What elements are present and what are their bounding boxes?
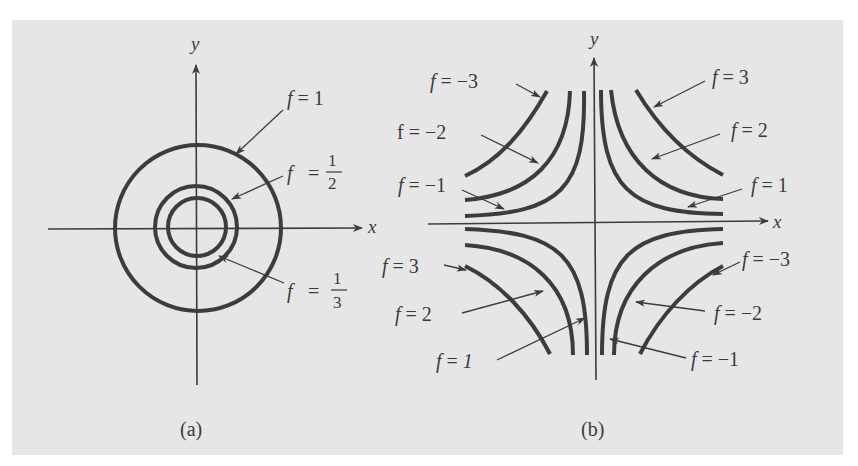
label-f-equals-1-top-right: f = 1	[688, 174, 788, 207]
svg-text:f = −2: f = −2	[714, 302, 762, 325]
label-f-equals-neg3-bottom-right: f = −3	[713, 248, 790, 275]
svg-text:2: 2	[328, 174, 337, 193]
svg-text:f = −3: f = −3	[430, 70, 478, 93]
svg-text:1: 1	[333, 269, 342, 288]
svg-text:=: =	[308, 280, 319, 302]
label-f-equals-neg2-top-left: f = −2	[397, 121, 538, 163]
label-f-equals-3-top-right: f = 3	[654, 66, 749, 107]
curve-f-neg3-upper-left	[465, 91, 547, 176]
svg-text:=: =	[308, 162, 319, 184]
svg-text:f: f	[287, 162, 295, 185]
svg-text:f = 2: f = 2	[731, 119, 768, 142]
label-f-equals-1-bottom-left: f = 1	[436, 318, 585, 373]
quadrant-lower-right-curves	[602, 229, 723, 355]
label-f-equals-neg1-bottom-right: f = −1	[610, 339, 739, 371]
curve-f-3-upper-right	[636, 90, 723, 175]
svg-text:f = 3: f = 3	[712, 66, 749, 89]
svg-text:f = 1: f = 1	[436, 350, 473, 373]
svg-text:f = −2: f = −2	[397, 121, 446, 143]
curve-f-neg3-lower-right	[640, 266, 723, 354]
x-axis-label: x	[367, 216, 377, 237]
label-f-equals-one-half: f = 1 2	[232, 151, 342, 199]
panel-b-caption: (b)	[581, 418, 604, 441]
quadrant-lower-left-curves	[465, 229, 587, 355]
svg-text:3: 3	[333, 293, 342, 312]
label-f-equals-neg3-top-left: f = −3	[430, 70, 540, 97]
x-axis-label: x	[772, 211, 782, 232]
label-f-equals-neg1-top-left: f = −1	[398, 174, 504, 209]
svg-text:f = 1: f = 1	[751, 174, 788, 197]
svg-text:f = 2: f = 2	[395, 303, 432, 326]
svg-text:f = −1: f = −1	[691, 348, 739, 371]
svg-text:f = 1: f = 1	[287, 87, 324, 110]
panel-b: x y f = −3	[382, 28, 790, 441]
x-axis	[48, 228, 362, 229]
curve-f-neg2-upper-left	[465, 91, 570, 200]
y-axis-label: y	[189, 33, 200, 54]
svg-text:f = 3: f = 3	[382, 255, 419, 278]
label-f-equals-3-bottom-left: f = 3	[382, 255, 466, 278]
quadrant-upper-left-curves	[465, 91, 584, 216]
svg-text:1: 1	[328, 151, 337, 170]
label-f-equals-2-top-right: f = 2	[652, 119, 768, 159]
level-curves-figure: x y f = 1 f = 1 2 f = 1 3 (a)	[0, 0, 858, 466]
curve-f-neg1-lower-right	[602, 229, 723, 355]
panel-a-caption: (a)	[180, 418, 202, 441]
svg-text:f = −1: f = −1	[398, 174, 446, 197]
svg-text:f = −3: f = −3	[742, 248, 790, 271]
panel-a: x y f = 1 f = 1 2 f = 1 3 (a)	[48, 33, 377, 441]
label-f-equals-neg2-bottom-right: f = −2	[636, 302, 762, 325]
label-f-equals-1: f = 1	[236, 87, 324, 154]
quadrant-upper-right-curves	[601, 90, 723, 214]
curve-f-2-lower-left	[465, 245, 573, 355]
y-axis	[594, 58, 596, 380]
curve-f-2-upper-right	[611, 90, 723, 199]
y-axis	[196, 65, 197, 385]
svg-text:f: f	[287, 280, 295, 303]
curve-f-neg2-lower-right	[614, 243, 723, 355]
label-f-equals-one-third: f = 1 3	[219, 256, 347, 312]
x-axis	[428, 221, 768, 224]
y-axis-label: y	[588, 28, 599, 49]
